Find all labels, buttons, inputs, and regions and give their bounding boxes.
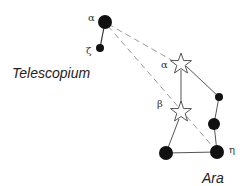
ara-line-5 <box>166 152 217 153</box>
ara-line-2 <box>186 66 219 97</box>
constellation-name-ara: Ara <box>201 170 224 186</box>
label-ara-eta: η <box>229 144 235 155</box>
star-dot-ara-mid <box>208 118 220 130</box>
star-dot-ara-eta <box>210 145 224 159</box>
star-dot-ara-small <box>215 93 223 101</box>
constellation-diagram: α ζ α β η Telescopium Ara <box>0 0 251 186</box>
label-tel-zeta: ζ <box>86 45 92 56</box>
label-ara-beta: β <box>157 98 163 109</box>
dashed-line-to-ara-alpha <box>108 24 175 62</box>
constellation-name-telescopium: Telescopium <box>12 65 90 81</box>
label-ara-alpha: α <box>161 59 168 70</box>
star-dot-tel-zeta <box>96 44 104 52</box>
label-tel-alpha: α <box>88 12 95 23</box>
dashed-line-to-ara-eta <box>108 26 214 148</box>
star-dot-tel-alpha <box>98 15 112 29</box>
star-dot-ara-bl <box>159 146 173 160</box>
